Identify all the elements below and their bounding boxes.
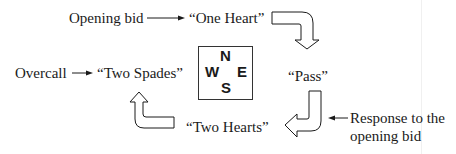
compass-south: S (221, 80, 231, 96)
overcall-label: Overcall (15, 65, 67, 81)
bid-north: “One Heart” (189, 10, 264, 26)
overcall-pointer-arrow (72, 71, 93, 76)
bid-east: “Pass” (288, 68, 328, 84)
hollow-arrow-east-to-south (285, 91, 321, 137)
compass-east: E (237, 64, 247, 80)
response-pointer-arrow (328, 116, 348, 121)
response-label-line1: Response to the (350, 110, 445, 126)
bid-south: “Two Hearts” (186, 119, 269, 135)
bid-west: “Two Spades” (97, 65, 183, 81)
response-label-line2: opening bid (350, 128, 421, 144)
bidding-diagram: Opening bid “One Heart” Overcall “Two Sp… (0, 0, 456, 154)
hollow-arrow-north-to-east (272, 12, 319, 49)
compass-box: N W E S (198, 46, 253, 100)
opening-bid-pointer-arrow (147, 16, 185, 21)
hollow-arrow-south-to-west (130, 92, 174, 128)
compass-west: W (205, 64, 219, 80)
compass-north: N (220, 48, 231, 64)
opening-bid-label: Opening bid (69, 10, 144, 26)
